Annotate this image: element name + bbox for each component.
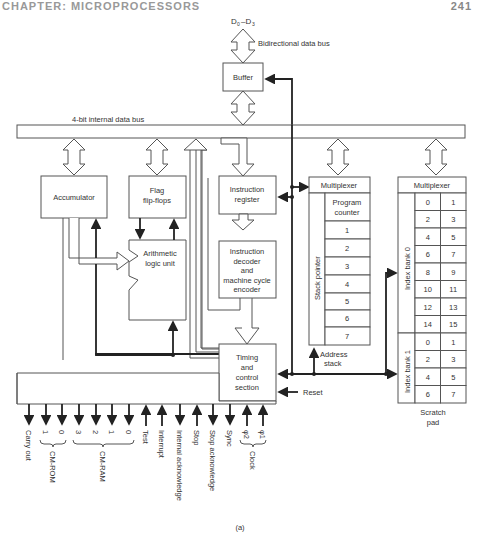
index-bank-0-label: Index bank 0	[403, 247, 412, 290]
svg-text:section: section	[235, 383, 259, 392]
svg-text:encoder: encoder	[233, 285, 261, 294]
scratchpad-register-number: 1	[451, 198, 455, 207]
svg-text:0: 0	[237, 21, 240, 27]
alu-label-line1: Arithmetic	[143, 249, 177, 258]
arrow-ir-decoder	[232, 214, 254, 230]
svg-text:1: 1	[345, 226, 349, 235]
arrow-decoder-timing	[235, 298, 259, 344]
svg-text:φ2: φ2	[242, 430, 251, 439]
figure-caption: (a)	[235, 523, 245, 532]
scratchpad-register-number: 0	[426, 198, 430, 207]
arrow-bus-flags	[146, 139, 168, 175]
pin-lines	[29, 404, 263, 426]
index-bank-1-registers: 01234567	[415, 333, 466, 403]
svg-text:6: 6	[345, 314, 349, 323]
svg-text:CM-ROM: CM-ROM	[48, 451, 57, 483]
scratchpad-register-number: 3	[451, 215, 455, 224]
scratchpad-register-number: 2	[426, 355, 430, 364]
scratchpad-register-number: 10	[424, 285, 432, 294]
stack-levels: 1 2 3 4 5 6 7	[325, 221, 370, 345]
svg-text:4: 4	[345, 280, 349, 289]
address-stack-label-line1: Address	[320, 350, 348, 359]
svg-text:3: 3	[252, 21, 255, 27]
ir-label-line2: register	[234, 195, 260, 204]
scratchpad-register-number: 4	[426, 373, 430, 382]
buffer-control-line	[266, 79, 292, 125]
stack-pointer-label: Stack pointer	[313, 256, 322, 300]
svg-text:2: 2	[91, 430, 100, 434]
scratchpad-register-number: 6	[426, 390, 430, 399]
scratchpad-caption-line2: pad	[427, 418, 440, 427]
svg-text:control: control	[236, 373, 259, 382]
scratchpad-multiplexer-label: Multiplexer	[414, 181, 451, 190]
ir-label-line1: Instruction	[230, 185, 265, 194]
svg-text:CM-RAM: CM-RAM	[98, 451, 107, 482]
reset-label: Reset	[303, 388, 324, 397]
svg-text:Test: Test	[141, 430, 150, 445]
svg-text:φ1: φ1	[258, 430, 267, 439]
pc-label-line2: counter	[334, 208, 360, 217]
scratchpad-register-number: 5	[451, 233, 455, 242]
svg-text:Carry out: Carry out	[24, 430, 33, 462]
bidirectional-data-bus-label: Bidirectional data bus	[258, 39, 330, 48]
svg-text:5: 5	[345, 297, 349, 306]
bidirectional-arrow-buffer	[231, 91, 255, 125]
external-data-bus-label: D 0 –D 3	[231, 17, 255, 27]
internal-data-bus	[17, 125, 465, 138]
index-bank-0-registers: 0123456789101112131415	[415, 193, 466, 333]
arrow-bus-accumulator	[63, 139, 85, 175]
stack-multiplexer-label: Multiplexer	[321, 181, 358, 190]
svg-text:Interrupt: Interrupt	[157, 430, 166, 459]
address-stack-label-line2: stack	[324, 359, 342, 368]
accumulator-label: Accumulator	[53, 193, 95, 202]
bidirectional-arrow-external	[231, 29, 255, 63]
svg-text:and: and	[241, 266, 254, 275]
scratchpad-register-number: 1	[451, 338, 455, 347]
index-bank-1-label: Index bank 1	[403, 350, 412, 393]
scratchpad-caption-line1: Scratch	[420, 408, 445, 417]
flag-label-line2: flip-flops	[143, 196, 171, 205]
scratchpad-register-number: 6	[426, 250, 430, 259]
scratchpad-register-number: 2	[426, 215, 430, 224]
svg-text:Internal acknowledge: Internal acknowledge	[175, 430, 184, 501]
scratchpad-register-number: 8	[426, 268, 430, 277]
svg-text:Stop: Stop	[192, 430, 201, 445]
svg-text:Sync: Sync	[225, 430, 234, 447]
svg-text:0: 0	[57, 430, 66, 434]
arrow-accumulator-alu	[69, 218, 129, 270]
svg-text:–D: –D	[241, 17, 251, 26]
svg-text:decoder: decoder	[233, 257, 261, 266]
scratchpad-register-number: 0	[426, 338, 430, 347]
alu-label-line2: logic unit	[145, 259, 176, 268]
svg-text:2: 2	[345, 244, 349, 253]
svg-text:and: and	[241, 363, 254, 372]
svg-text:Stop acknowledge: Stop acknowledge	[208, 430, 217, 491]
svg-text:3: 3	[74, 430, 83, 434]
svg-text:1: 1	[107, 430, 116, 434]
svg-text:Instruction: Instruction	[230, 247, 265, 256]
scratchpad-register-number: 3	[451, 355, 455, 364]
buffer-label: Buffer	[233, 73, 253, 82]
scratchpad-register-number: 7	[451, 390, 455, 399]
scratchpad-register-number: 14	[424, 320, 432, 329]
flag-label-line1: Flag	[150, 186, 165, 195]
scratchpad-register-number: 11	[449, 285, 457, 294]
arrow-bus-scratch-mux	[425, 139, 447, 175]
pin-labels: Carry out 1 0 CM-ROM 3 2 1 0 CM-RAM Test…	[24, 430, 267, 501]
svg-text:machine cycle: machine cycle	[223, 276, 271, 285]
internal-bus-label: 4-bit internal data bus	[72, 115, 144, 124]
svg-text:3: 3	[345, 262, 349, 271]
scratchpad-register-number: 7	[451, 250, 455, 259]
scratchpad-register-number: 12	[424, 303, 432, 312]
scratchpad-register-number: 13	[449, 303, 457, 312]
pc-label-line1: Program	[333, 198, 362, 207]
scratchpad-register-number: 9	[451, 268, 455, 277]
svg-text:Timing: Timing	[236, 353, 258, 362]
timing-control-label: Timing and control section	[235, 353, 259, 392]
arrow-bus-ir	[221, 138, 254, 176]
arrow-bus-stack-mux	[327, 139, 349, 175]
svg-text:1: 1	[41, 430, 50, 434]
scratchpad-register-number: 15	[449, 320, 457, 329]
scratchpad-register-number: 5	[451, 373, 455, 382]
processor-block-diagram: D 0 –D 3 Bidirectional data bus Buffer 4…	[0, 0, 480, 545]
